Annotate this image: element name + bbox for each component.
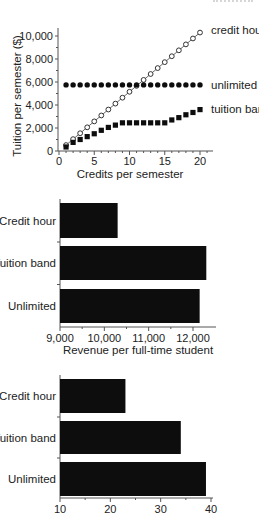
chart1-x-tick-label: 10 xyxy=(123,155,135,167)
category-label: Tuition band xyxy=(0,432,56,444)
chart2-x-tick-label: 9,000 xyxy=(46,332,74,344)
series-label-credit-hour: credit hour xyxy=(211,24,259,36)
chart2-x-axis-title: Revenue per full-time student xyxy=(63,344,214,356)
data-point xyxy=(106,82,111,87)
data-point xyxy=(120,95,125,100)
data-point xyxy=(113,123,118,128)
data-point xyxy=(92,131,97,136)
data-point xyxy=(148,72,153,77)
data-point xyxy=(70,82,75,87)
data-point xyxy=(134,82,139,87)
data-point xyxy=(113,82,118,87)
chart1-y-tick-label: 2,000 xyxy=(25,122,53,134)
category-label: Unlimited xyxy=(8,473,56,485)
tuition-line-chart: 02,0004,0006,0008,00010,00005101520 Cred… xyxy=(11,24,259,180)
data-point xyxy=(85,82,90,87)
chart3-body: 10203040Credit hourTuition bandUnlimited xyxy=(0,375,217,515)
chart1-y-tick-label: 4,000 xyxy=(25,99,53,111)
data-point xyxy=(197,82,202,87)
data-point xyxy=(127,89,132,94)
data-point xyxy=(183,82,188,87)
data-point xyxy=(120,82,125,87)
data-point xyxy=(77,82,82,87)
data-point xyxy=(99,82,104,87)
data-point xyxy=(198,30,203,35)
chart2-x-tick-label: 11,000 xyxy=(132,332,165,344)
bar-tuition-band xyxy=(60,246,206,280)
chart1-y-tick-label: 8,000 xyxy=(25,53,53,65)
series-unlimited xyxy=(63,82,202,87)
data-point xyxy=(162,120,167,125)
chart1-y-tick-label: 10,000 xyxy=(19,30,53,42)
data-point xyxy=(106,107,111,112)
data-point xyxy=(71,140,76,145)
data-point xyxy=(197,107,202,112)
data-point xyxy=(127,82,132,87)
category-label: Unlimited xyxy=(8,300,56,312)
data-point xyxy=(99,128,104,133)
chart3-x-tick-label: 40 xyxy=(205,503,217,515)
bar-credit-hour xyxy=(60,203,118,238)
figure-canvas: 02,0004,0006,0008,00010,00005101520 Cred… xyxy=(0,0,259,519)
data-point xyxy=(169,82,174,87)
chart1-axes: 02,0004,0006,0008,00010,00005101520 xyxy=(19,28,213,167)
data-point xyxy=(183,112,188,117)
chart1-y-tick-label: 6,000 xyxy=(25,76,53,88)
data-point xyxy=(162,82,167,87)
chart3-x-tick-label: 10 xyxy=(54,503,66,515)
data-point xyxy=(99,113,104,118)
data-point xyxy=(148,120,153,125)
bar-unlimited xyxy=(60,289,200,323)
data-point xyxy=(120,120,125,125)
bar-unlimited xyxy=(60,462,206,496)
bar-tuition-band xyxy=(60,421,181,454)
category-label: Credit hour xyxy=(0,390,56,402)
series-label-unlimited: unlimited xyxy=(211,79,257,91)
data-point xyxy=(141,82,146,87)
data-point xyxy=(127,120,132,125)
data-point xyxy=(190,82,195,87)
chart2-body: 9,00010,00011,00012,000Credit hourTuitio… xyxy=(0,199,216,344)
category-label: Tuition band xyxy=(0,257,56,269)
revenue-bar-chart: 9,00010,00011,00012,000Credit hourTuitio… xyxy=(0,199,216,356)
data-point xyxy=(155,82,160,87)
data-point xyxy=(169,54,174,59)
series-tuition-band xyxy=(63,107,202,150)
data-point xyxy=(162,60,167,65)
data-point xyxy=(78,131,83,136)
chart2-x-tick-label: 12,000 xyxy=(176,332,210,344)
data-point xyxy=(169,117,174,122)
series-label-tuition-band: tuition band xyxy=(211,103,259,115)
data-point xyxy=(63,144,68,149)
bar-credit-hour xyxy=(60,379,125,413)
data-point xyxy=(85,134,90,139)
data-point xyxy=(78,137,83,142)
chart1-y-axis-title: Tuition per semester ($) xyxy=(11,35,23,157)
data-point xyxy=(141,120,146,125)
data-point xyxy=(63,82,68,87)
data-point xyxy=(176,48,181,53)
data-point xyxy=(191,36,196,41)
data-point xyxy=(113,101,118,106)
chart1-x-axis-title: Credits per semester xyxy=(77,168,184,180)
chart1-x-tick-label: 0 xyxy=(56,155,62,167)
chart2-x-tick-label: 10,000 xyxy=(88,332,122,344)
data-point xyxy=(155,120,160,125)
chart1-x-tick-label: 15 xyxy=(159,155,171,167)
chart3-x-tick-label: 20 xyxy=(104,503,116,515)
category-label: Credit hour xyxy=(0,215,56,227)
chart3-x-tick-label: 30 xyxy=(155,503,167,515)
data-point xyxy=(106,125,111,130)
chart1-series xyxy=(63,30,202,149)
data-point xyxy=(148,82,153,87)
third-bar-chart: 10203040Credit hourTuition bandUnlimited xyxy=(0,375,217,515)
data-point xyxy=(155,66,160,71)
data-point xyxy=(141,78,146,83)
chart1-x-tick-label: 20 xyxy=(194,155,206,167)
data-point xyxy=(176,115,181,120)
data-point xyxy=(176,82,181,87)
chart1-x-tick-label: 5 xyxy=(91,155,97,167)
chart1-y-tick-label: 0 xyxy=(47,145,53,157)
data-point xyxy=(85,125,90,130)
data-point xyxy=(92,82,97,87)
